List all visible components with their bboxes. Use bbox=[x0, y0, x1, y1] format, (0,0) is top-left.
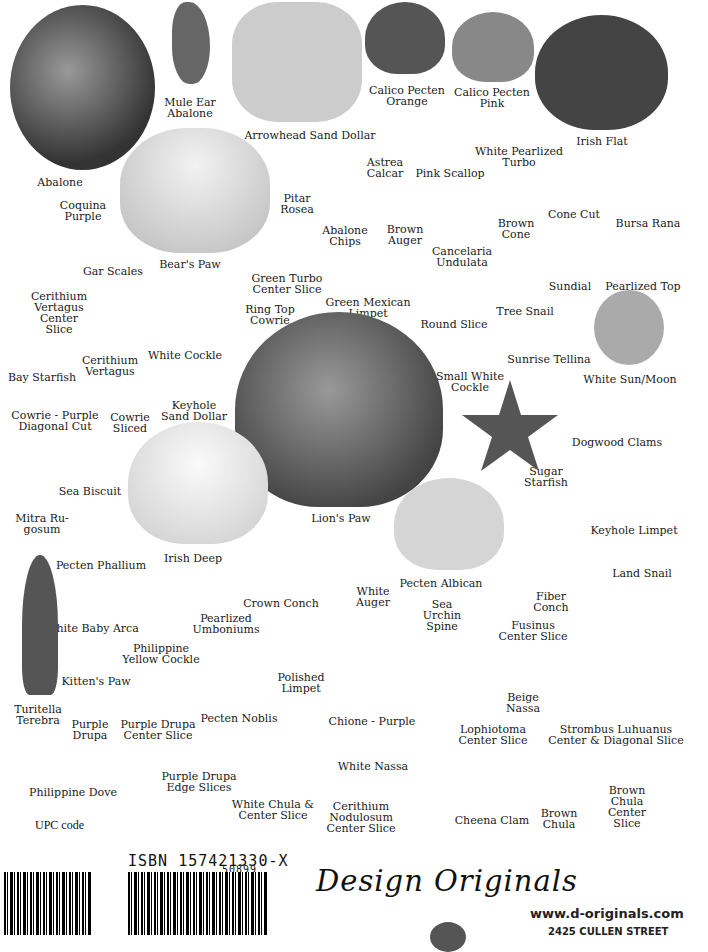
shell-label: White Pearlized Turbo bbox=[475, 146, 563, 168]
shell-label: Bursa Rana bbox=[616, 218, 681, 229]
shell-label: Brown Chula Center Slice bbox=[608, 785, 646, 829]
upc-code-label: UPC code bbox=[35, 818, 84, 833]
shell-label: Purple Drupa Center Slice bbox=[120, 719, 195, 741]
shell-label: Cancelaria Undulata bbox=[432, 246, 492, 268]
shell-label: Pecten Albican bbox=[400, 578, 483, 589]
shell-label: Cerithium Nodulosum Center Slice bbox=[327, 801, 396, 834]
white-sun-moon-image bbox=[594, 290, 664, 365]
brand-logo: Design Originals bbox=[316, 864, 578, 898]
upc-barcode bbox=[4, 872, 92, 935]
shell-label: Astrea Calcar bbox=[367, 157, 403, 179]
shell-label: Land Snail bbox=[612, 568, 672, 579]
shell-label: Mule Ear Abalone bbox=[164, 97, 216, 119]
shell-label: White Cockle bbox=[148, 350, 222, 361]
shell-label: Sea Biscuit bbox=[59, 486, 122, 497]
shell-label: Purple Drupa bbox=[72, 719, 109, 741]
calico-orange-image bbox=[365, 2, 445, 74]
shell-label: Brown Chula bbox=[541, 808, 577, 830]
shell-label: Brown Auger bbox=[387, 224, 423, 246]
shell-label: Cowrie - Purple Diagonal Cut bbox=[11, 410, 98, 432]
shell-label: Bear's Paw bbox=[159, 259, 220, 270]
panda-logo-icon bbox=[430, 922, 466, 952]
shell-label: Turitella Terebra bbox=[14, 704, 62, 726]
shell-label: Irish Flat bbox=[576, 136, 627, 147]
address-text: 2425 CULLEN STREET bbox=[548, 926, 668, 937]
shell-label: Pearlized Umboniums bbox=[192, 613, 259, 635]
shell-label: Arrowhead Sand Dollar bbox=[244, 130, 375, 141]
isbn-barcode bbox=[128, 872, 268, 935]
shell-label: Sundial bbox=[549, 281, 591, 292]
shell-label: Philippine Yellow Cockle bbox=[122, 643, 199, 665]
shell-label: Lophiotoma Center Slice bbox=[459, 724, 528, 746]
shell-label: Sea Urchin Spine bbox=[423, 599, 461, 632]
shell-label: Brown Cone bbox=[498, 218, 534, 240]
shell-label: Small White Cockle bbox=[436, 371, 504, 393]
shell-label: Pink Scallop bbox=[415, 168, 484, 179]
website-link: www.d-originals.com bbox=[530, 906, 684, 921]
irish-deep-image bbox=[128, 422, 268, 544]
shell-label: Calico Pecten Orange bbox=[369, 85, 445, 107]
shell-label: Purple Drupa Edge Slices bbox=[161, 771, 236, 793]
shell-label: Tree Snail bbox=[496, 306, 553, 317]
shell-label: Sugar Starfish bbox=[524, 466, 568, 488]
shell-label: Crown Conch bbox=[243, 598, 319, 609]
shell-label: Cheena Clam bbox=[455, 815, 530, 826]
shell-label: Pearlized Top bbox=[605, 281, 680, 292]
irish-flat-image bbox=[535, 15, 668, 130]
bears-paw-image bbox=[120, 128, 270, 253]
shell-label: Pitar Rosea bbox=[280, 193, 314, 215]
shell-label: Gar Scales bbox=[83, 266, 143, 277]
shell-label: Bay Starfish bbox=[8, 372, 76, 383]
pecten-albican-image bbox=[394, 478, 504, 570]
turitella-image bbox=[22, 555, 58, 695]
shell-label: Green Turbo Center Slice bbox=[252, 273, 323, 295]
shell-label: Cowrie Sliced bbox=[110, 412, 150, 434]
shell-label: Polished Limpet bbox=[278, 672, 325, 694]
sand-dollar-image bbox=[232, 2, 362, 122]
mule-ear-image bbox=[172, 2, 210, 84]
shell-label: Coquina Purple bbox=[60, 200, 106, 222]
shell-label: Dogwood Clams bbox=[572, 437, 662, 448]
shell-label: White Nassa bbox=[338, 761, 408, 772]
shell-label: White Baby Arca bbox=[45, 623, 139, 634]
shell-label: White Sun/Moon bbox=[583, 374, 676, 385]
shell-label: Philippine Dove bbox=[29, 787, 117, 798]
shell-label: Lion's Paw bbox=[311, 513, 371, 524]
shell-label: White Auger bbox=[356, 586, 390, 608]
shell-label: Cone Cut bbox=[548, 209, 600, 220]
shell-label: Beige Nassa bbox=[506, 692, 540, 714]
shell-label: Pecten Phallium bbox=[56, 560, 146, 571]
shell-label: Cerithium Vertagus Center Slice bbox=[31, 291, 87, 335]
shell-label: Round Slice bbox=[421, 319, 488, 330]
shell-label: Pecten Noblis bbox=[200, 713, 277, 724]
shell-label: White Chula & Center Slice bbox=[232, 799, 314, 821]
shell-label: Chione - Purple bbox=[329, 716, 416, 727]
shell-label: Ring Top Cowrie bbox=[245, 304, 295, 326]
shell-label: Abalone Chips bbox=[322, 225, 367, 247]
shell-label: Keyhole Sand Dollar bbox=[161, 400, 227, 422]
shell-label: Keyhole Limpet bbox=[590, 525, 677, 536]
shell-label: Mitra Ru- gosum bbox=[15, 513, 69, 535]
shell-label: Cerithium Vertagus bbox=[82, 355, 138, 377]
abalone-image bbox=[10, 5, 155, 170]
shell-label: Abalone bbox=[37, 177, 82, 188]
shell-label: Kitten's Paw bbox=[61, 676, 130, 687]
shell-label: Fiber Conch bbox=[533, 591, 568, 613]
isbn-number: ISBN 157421330-X bbox=[128, 852, 289, 870]
shell-label: Strombus Luhuanus Center & Diagonal Slic… bbox=[548, 724, 683, 746]
shell-label: Irish Deep bbox=[164, 553, 222, 564]
shell-label: Calico Pecten Pink bbox=[454, 87, 530, 109]
shell-label: Fusinus Center Slice bbox=[499, 620, 568, 642]
shell-label: Sunrise Tellina bbox=[507, 354, 590, 365]
calico-pink-image bbox=[452, 12, 534, 82]
